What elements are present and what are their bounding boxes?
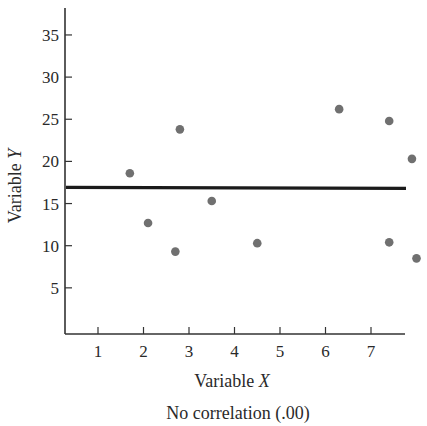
x-tick-label: 7 xyxy=(367,342,376,361)
data-point xyxy=(408,155,417,164)
y-axis-ticks: 5101520253035 xyxy=(42,26,72,298)
scatter-chart: 5101520253035 1234567 Variable Y Variabl… xyxy=(0,0,427,426)
data-point xyxy=(176,125,185,134)
y-tick-label: 25 xyxy=(42,110,59,129)
regression-line xyxy=(66,187,406,188)
y-tick-label: 30 xyxy=(42,68,59,87)
y-tick-label: 20 xyxy=(42,152,59,171)
data-point xyxy=(144,219,153,228)
y-axis-label: Variable Y xyxy=(5,147,25,223)
data-point xyxy=(385,117,394,126)
data-point xyxy=(171,247,180,256)
chart-caption: No correlation (.00) xyxy=(166,403,309,424)
x-tick-label: 6 xyxy=(321,342,330,361)
y-tick-label: 35 xyxy=(42,26,59,45)
data-point xyxy=(412,254,421,263)
x-tick-label: 4 xyxy=(230,342,239,361)
y-tick-label: 5 xyxy=(51,279,60,298)
x-tick-label: 1 xyxy=(94,342,103,361)
axes xyxy=(65,8,405,334)
data-point xyxy=(253,239,262,248)
regression-line-path xyxy=(66,187,406,188)
y-tick-label: 10 xyxy=(42,237,59,256)
x-axis-label: Variable X xyxy=(194,371,270,391)
x-tick-label: 2 xyxy=(139,342,148,361)
x-tick-label: 5 xyxy=(276,342,285,361)
data-point xyxy=(385,238,394,247)
y-tick-label: 15 xyxy=(42,195,59,214)
data-point xyxy=(335,105,344,114)
x-axis-ticks: 1234567 xyxy=(94,327,376,361)
x-tick-label: 3 xyxy=(185,342,194,361)
data-point xyxy=(126,169,135,178)
data-points xyxy=(126,105,421,263)
data-point xyxy=(207,197,216,206)
